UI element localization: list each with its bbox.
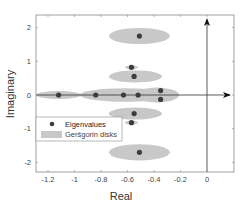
eigenvalue-point xyxy=(137,150,142,155)
eigenvalue-point xyxy=(132,111,137,116)
x-tick-label: -0.8 xyxy=(95,175,108,184)
y-axis-label: Imaginary xyxy=(4,69,16,118)
legend: Eigenvalues Geršgorin disks xyxy=(36,117,122,141)
legend-disk-swatch-icon xyxy=(41,131,62,138)
legend-eigenvalues-label: Eigenvalues xyxy=(65,120,106,129)
x-tick-label: -1.2 xyxy=(42,175,55,184)
eigenvalue-point xyxy=(158,88,163,93)
eigenvalue-point xyxy=(56,92,61,97)
eigenvalue-point xyxy=(132,74,137,79)
x-tick-label: -0.2 xyxy=(174,175,187,184)
y-tick-label: 1 xyxy=(27,57,31,66)
eigenvalue-point xyxy=(158,97,163,102)
gershgorin-chart: -1.2-1-0.8-0.6-0.4-0.20 210-1-2 Real Ima… xyxy=(0,0,250,211)
eigenvalue-point xyxy=(129,65,134,70)
y-tick-label: -2 xyxy=(24,158,31,167)
eigenvalue-point xyxy=(121,92,126,97)
x-tick-label: -0.4 xyxy=(148,175,161,184)
y-tick-label: 2 xyxy=(27,23,31,32)
legend-disks-label: Geršgorin disks xyxy=(65,130,117,139)
x-axis-label: Real xyxy=(110,190,133,202)
x-tick-label: 0 xyxy=(205,175,209,184)
eigenvalue-point xyxy=(136,92,141,97)
eigenvalue-point xyxy=(129,120,134,125)
y-tick-label: -1 xyxy=(24,124,31,133)
x-tick-label: -1 xyxy=(71,175,78,184)
x-tick-label: -0.6 xyxy=(121,175,134,184)
eigenvalue-point xyxy=(93,92,98,97)
y-tick-label: 0 xyxy=(27,91,31,100)
legend-eigenvalue-marker-icon xyxy=(50,122,55,127)
eigenvalue-point xyxy=(137,33,142,38)
